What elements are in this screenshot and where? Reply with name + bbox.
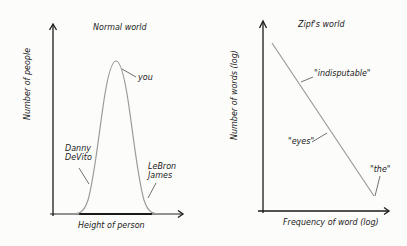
- right-x-axis-label: Frequency of word (log): [283, 218, 379, 227]
- normal-world-chart: [50, 24, 184, 218]
- lebron-pointer: [148, 183, 156, 198]
- annotation-lebron-line2: James: [148, 171, 176, 180]
- right-chart-title: Zipf's world: [298, 20, 345, 29]
- indisputable-pointer: [301, 77, 313, 82]
- bell-curve: [56, 61, 178, 214]
- annotation-indisputable: "indisputable": [314, 69, 371, 78]
- right-y-axis-label: Number of words (log): [230, 50, 239, 140]
- annotation-the: "the": [370, 165, 391, 174]
- annotation-eyes: "eyes": [288, 137, 314, 146]
- annotation-danny-line1: Danny: [65, 144, 92, 153]
- left-x-axis-label: Height of person: [78, 221, 145, 230]
- annotation-danny-line2: DeVito: [65, 153, 92, 162]
- left-chart-title: Normal world: [93, 23, 147, 32]
- you-pointer: [122, 69, 136, 77]
- charts-canvas: [0, 0, 407, 246]
- annotation-lebron-line1: LeBron: [148, 162, 176, 171]
- the-pointer: [375, 176, 380, 196]
- zipf-line: [272, 43, 374, 196]
- annotation-danny-devito: Danny DeVito: [65, 144, 92, 162]
- eyes-pointer: [312, 133, 327, 142]
- zipf-world-chart: [258, 21, 389, 215]
- left-y-axis-label: Number of people: [23, 48, 32, 120]
- annotation-lebron-james: LeBron James: [148, 162, 176, 180]
- annotation-you: you: [138, 73, 153, 82]
- danny-pointer: [79, 168, 89, 184]
